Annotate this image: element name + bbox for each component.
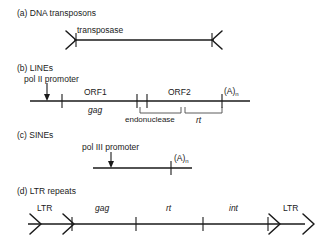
panel-dna-transposons: (a) DNA transposons transposase (0, 0, 324, 60)
transposable-element-figure: (a) DNA transposons transposase (b) LINE… (0, 0, 324, 247)
rt-bracket (185, 107, 222, 113)
panel-a-graphic (0, 0, 324, 60)
panel-d-graphic (0, 183, 324, 247)
pol2-promoter-arrowhead (44, 94, 50, 101)
panel-lines: (b) LINEs pol II promoter ORF1 ORF2 gag … (0, 60, 324, 125)
pol3-promoter-arrowhead (108, 161, 114, 168)
panel-sines: (c) SINEs pol III promoter (A)n (0, 125, 324, 183)
panel-c-graphic (0, 125, 324, 183)
endonuclease-bracket (140, 107, 181, 113)
panel-ltr-repeats: (d) LTR repeats LTR gag rt int LTR (0, 183, 324, 247)
panel-b-graphic (0, 60, 324, 125)
